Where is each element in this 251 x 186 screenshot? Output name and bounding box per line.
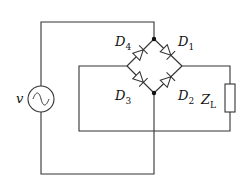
diode-label-d1: D1 (178, 35, 194, 52)
ac-source-icon (28, 86, 54, 112)
bridge-rectifier-diagram: v D4 D1 D3 D2 ZL (0, 0, 251, 186)
diode-label-d4: D4 (115, 35, 131, 52)
load-resistor-icon (225, 84, 235, 112)
diode-label-d3: D3 (115, 89, 131, 106)
junction-bottom (152, 91, 156, 95)
wire-load-right (182, 66, 230, 84)
wire-source-bottom (41, 94, 154, 174)
junction-top (152, 37, 156, 41)
source-label: v (16, 92, 23, 105)
load-label: ZL (201, 93, 216, 110)
diode-label-d2: D2 (178, 89, 194, 106)
